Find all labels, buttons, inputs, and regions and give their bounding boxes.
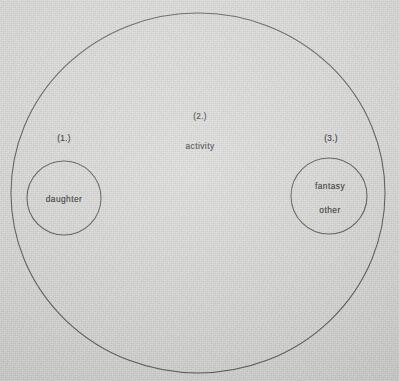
euler-diagram (0, 0, 399, 381)
subset-circle-fantasy-other (291, 158, 367, 234)
figure-canvas: (2.) activity (1.) daughter (3.) fantasy… (0, 0, 399, 381)
outer-set-ellipse (11, 13, 385, 373)
subset-circle-daughter (27, 161, 101, 235)
